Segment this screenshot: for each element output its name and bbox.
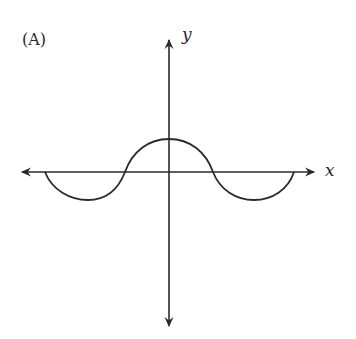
y-axis-label: y bbox=[182, 24, 192, 44]
panel-label: (A) bbox=[22, 30, 46, 49]
graph-figure: (A) y x bbox=[0, 0, 356, 339]
x-axis-label: x bbox=[325, 160, 335, 180]
graph-svg bbox=[0, 0, 356, 339]
